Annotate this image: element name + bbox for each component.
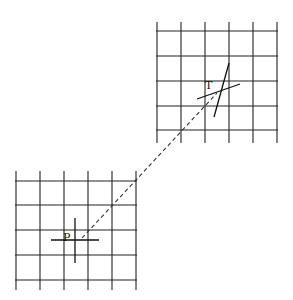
point-p-label: P xyxy=(63,231,71,244)
dashed-connector-line xyxy=(82,93,217,238)
point-t-label: T xyxy=(205,79,213,92)
target-grid xyxy=(156,22,278,143)
diagram-canvas: P T xyxy=(0,0,293,300)
point-p-cross xyxy=(51,218,99,263)
point-t-cross xyxy=(197,63,240,117)
source-grid xyxy=(15,171,137,290)
cross-line-1 xyxy=(197,84,240,99)
cross-line-2 xyxy=(214,63,229,117)
